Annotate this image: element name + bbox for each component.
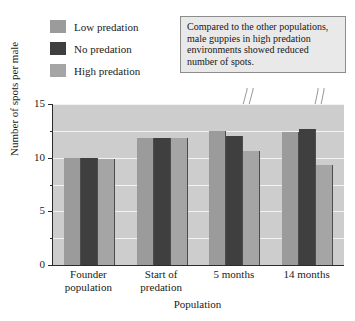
- callout-text: Compared to the other populations, male …: [187, 21, 339, 67]
- xtick-5months-line1: 5 months: [201, 268, 267, 281]
- xtick-14months-line1: 14 months: [274, 268, 340, 281]
- legend-label-no-predation: No predation: [74, 43, 132, 55]
- legend-label-low-predation: Low predation: [74, 21, 138, 33]
- bar-founder-no-predation: [81, 158, 98, 265]
- x-axis-tick-labels: Founder population Start of predation 5 …: [52, 268, 343, 293]
- bar-5months-no-predation: [226, 136, 243, 265]
- legend-item-high-predation: High predation: [50, 61, 180, 80]
- x-axis-label: Population: [52, 298, 343, 310]
- chart-plot-area: 15 10 5 0 Number of spots per male: [52, 104, 344, 266]
- callout-box: Compared to the other populations, male …: [180, 16, 346, 73]
- bar-group-start-of-predation: [137, 104, 188, 265]
- ytick-label-0: 0: [23, 258, 45, 270]
- bar-group-14-months: [282, 104, 333, 265]
- legend-item-low-predation: Low predation: [50, 17, 180, 36]
- bar-5months-high-predation: [243, 151, 260, 265]
- bar-group-founder-population: [64, 104, 115, 265]
- legend-item-no-predation: No predation: [50, 39, 180, 58]
- legend-swatch-high-predation: [50, 64, 66, 77]
- chart-legend: Low predation No predation High predatio…: [50, 17, 180, 83]
- bar-14months-low-predation: [282, 132, 299, 265]
- bar-start-low-predation: [137, 138, 154, 265]
- ytick-label-15: 15: [23, 97, 45, 109]
- bar-14months-high-predation: [316, 165, 333, 265]
- legend-label-high-predation: High predation: [74, 65, 140, 77]
- xtick-start-line1: Start of: [128, 268, 194, 281]
- xtick-founder-line1: Founder: [55, 268, 121, 281]
- bar-14months-no-predation: [299, 129, 316, 265]
- ytick-major-0: [48, 265, 53, 266]
- legend-swatch-no-predation: [50, 42, 66, 55]
- bar-founder-low-predation: [64, 158, 81, 265]
- ytick-label-10: 10: [23, 151, 45, 163]
- bar-groups-container: [53, 104, 344, 265]
- bar-start-high-predation: [171, 138, 188, 265]
- xtick-start-of-predation: Start of predation: [128, 268, 194, 293]
- y-axis-label: Number of spots per male: [8, 6, 20, 156]
- bar-founder-high-predation: [98, 159, 115, 265]
- bar-5months-low-predation: [209, 131, 226, 265]
- xtick-founder-line2: population: [55, 281, 121, 294]
- xtick-start-line2: predation: [128, 281, 194, 294]
- xtick-5-months: 5 months: [201, 268, 267, 293]
- ytick-label-5: 5: [23, 204, 45, 216]
- legend-swatch-low-predation: [50, 20, 66, 33]
- xtick-14-months: 14 months: [274, 268, 340, 293]
- xtick-founder-population: Founder population: [55, 268, 121, 293]
- bar-start-no-predation: [154, 138, 171, 265]
- bar-group-5-months: [209, 104, 260, 265]
